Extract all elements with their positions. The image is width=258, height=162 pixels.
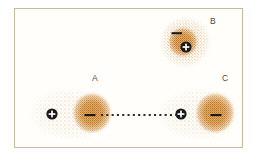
atom-a-negative-charge <box>85 114 96 116</box>
atom-c <box>155 86 243 142</box>
atom-a <box>26 86 114 142</box>
atom-label-b: B <box>210 17 216 26</box>
atom-a-positive-charge <box>46 108 57 119</box>
atom-c-positive-charge <box>175 108 186 119</box>
atom-c-negative-charge <box>211 114 222 116</box>
atom-a-dense-lobe <box>71 91 113 135</box>
atom-label-a: A <box>92 74 98 83</box>
atom-c-dense-lobe <box>194 91 236 135</box>
atom-b <box>158 15 212 69</box>
physics-diagram-figure: A B C <box>0 0 258 162</box>
atom-b-negative-charge <box>172 32 183 34</box>
atom-b-dense-lobe <box>167 26 199 58</box>
atom-label-c: C <box>222 74 228 83</box>
atom-b-positive-charge <box>180 41 191 52</box>
diagram-canvas <box>0 0 258 162</box>
